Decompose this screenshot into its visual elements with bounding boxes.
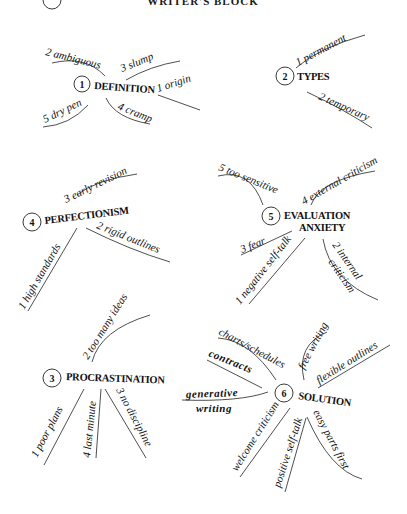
- branch-fear: 3 fear: [237, 234, 267, 255]
- branch-welcome-criticism: welcome criticism: [229, 399, 281, 473]
- node-types: 2 TYPES 1 permanent 2 temporary: [276, 31, 372, 128]
- node-number: 2: [283, 71, 288, 82]
- branch-ambiguous: 2 ambiguous: [45, 45, 103, 70]
- branch-positive-self-talk: positive self-talk: [270, 415, 304, 490]
- node-number: 5: [269, 211, 274, 222]
- branch-line: [158, 95, 200, 110]
- branch-too-sensitive: 5 too sensitive: [217, 161, 280, 196]
- branch-generative: generative: [185, 386, 238, 400]
- branch-origin: 1 origin: [155, 71, 193, 93]
- node-label: DEFINITION: [94, 80, 156, 95]
- branch-last-minute: 4 last minute: [80, 400, 98, 458]
- node-label-line2: ANXIETY: [299, 222, 346, 233]
- mind-map-canvas: WRITER'S BLOCK 1 DEFINITION 2 ambiguous …: [0, 0, 407, 514]
- branch-early-revision: 3 early revision: [61, 164, 129, 206]
- node-definition: 1 DEFINITION 2 ambiguous 3 slump 1 origi…: [41, 45, 200, 127]
- node-number: 1: [80, 79, 85, 90]
- branch-temporary: 2 temporary: [317, 90, 371, 123]
- branch-free-writing: free writing: [295, 320, 330, 371]
- node-label: SOLUTION: [298, 390, 353, 408]
- node-label: PERFECTIONISM: [44, 205, 130, 226]
- branch-dry-pen: 5 dry pen: [41, 96, 84, 125]
- branch-external-criticism: 4 external criticism: [299, 154, 379, 207]
- branch-poor-plans: 1 poor plans: [28, 404, 65, 459]
- node-label-line1: EVALUATION: [284, 210, 351, 221]
- branch-permanent: 1 permanent: [293, 31, 348, 68]
- branch-writing: writing: [196, 402, 232, 414]
- branch-line: [96, 389, 101, 458]
- node-label: PROCRASTINATION: [66, 371, 166, 385]
- node-number: 3: [50, 373, 55, 384]
- branch-easy-parts-first: easy parts first: [311, 407, 353, 471]
- node-evaluation-anxiety: 5 EVALUATION ANXIETY 5 too sensitive 4 e…: [217, 154, 379, 307]
- node-perfectionism: 4 PERFECTIONISM 3 early revision 2 rigid…: [15, 164, 170, 311]
- node-number-circle: [43, 0, 61, 9]
- branch-slump: 3 slump: [117, 50, 155, 75]
- branch-flexible-outlines: flexible outlines: [314, 338, 380, 385]
- node-number: 4: [30, 217, 35, 228]
- node-number: 6: [282, 388, 287, 399]
- node-label: TYPES: [297, 71, 330, 82]
- diagram-title: WRITER'S BLOCK: [147, 0, 259, 7]
- node-solution: 6 SOLUTION charts/schedules free writing…: [182, 320, 390, 492]
- branch-high-standards: 1 high standards: [15, 241, 62, 311]
